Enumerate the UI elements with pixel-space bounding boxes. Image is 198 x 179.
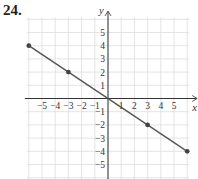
y-tick-label: 5 [100, 28, 105, 38]
data-point [185, 149, 190, 154]
data-point [26, 43, 31, 48]
coordinate-plane: xy −5−4−3−2−11234554321−1−2−3−4−5 [0, 0, 198, 179]
y-tick-label: 1 [100, 81, 105, 91]
x-tick-label: −4 [50, 101, 60, 111]
y-tick-label: −5 [95, 160, 105, 170]
y-tick-label: −4 [95, 147, 105, 157]
y-tick-label: 3 [100, 54, 105, 64]
y-tick-label: −1 [95, 107, 105, 117]
data-point [145, 123, 150, 128]
y-axis-label: y [98, 5, 104, 16]
y-tick-label: 2 [100, 68, 105, 78]
x-tick-label: 4 [158, 101, 163, 111]
x-tick-label: −5 [37, 101, 47, 111]
x-tick-label: 5 [172, 101, 177, 111]
data-point [66, 70, 71, 75]
axes: xy [25, 5, 197, 179]
y-tick-label: 4 [100, 41, 105, 51]
x-axis-label: x [191, 102, 197, 113]
y-tick-label: −2 [95, 120, 105, 130]
y-tick-label: −3 [95, 134, 105, 144]
x-tick-label: −2 [77, 101, 87, 111]
x-tick-label: −3 [63, 101, 73, 111]
x-tick-label: 3 [145, 101, 150, 111]
x-tick-label: 2 [132, 101, 137, 111]
